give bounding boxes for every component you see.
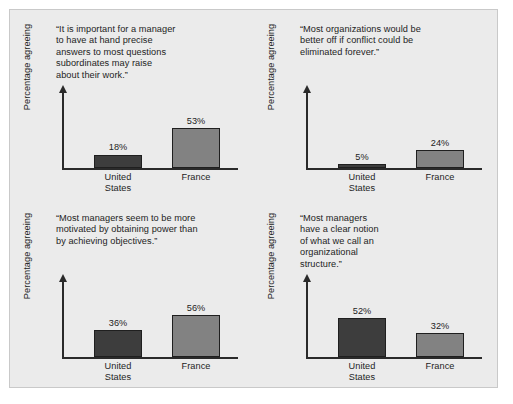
chart-panel-4: “Most managers have a clear notion of wh… [254,199,498,388]
y-axis-label-1: Percentage agreeing [22,21,32,113]
figure-panel: “It is important for a manager to have a… [9,9,498,388]
y-axis-label-3: Percentage agreeing [22,210,32,302]
y-axis-arrow-icon-3 [59,274,67,282]
y-axis-label-2: Percentage agreeing [266,21,276,113]
plot-area-2: 5% 24% United States France [306,86,482,170]
category-label-france-2: France [404,172,476,183]
category-label-france-4: France [404,361,476,372]
plot-area-4: 52% 32% United States France [306,275,482,359]
bar-value-france-2: 24% [410,138,470,148]
chart-panel-2: “Most organizations would be better off … [254,10,498,199]
category-label-united-states-2: United States [326,172,398,194]
chart-title-2: “Most organizations would be better off … [300,24,486,58]
x-axis-line-2 [306,168,482,170]
bar-france-1 [172,128,220,168]
y-axis-line-2 [306,92,308,170]
bar-value-france-4: 32% [410,321,470,331]
bar-value-france-3: 56% [166,303,226,313]
chart-title-3: “Most managers seem to be more motivated… [56,213,242,247]
bar-value-united-states-2: 5% [332,152,392,162]
category-label-france-1: France [160,172,232,183]
x-axis-line-3 [62,357,238,359]
chart-title-1: “It is important for a manager to have a… [56,24,242,81]
bar-value-france-1: 53% [166,116,226,126]
bar-france-2 [416,150,464,168]
y-axis-arrow-icon-1 [59,85,67,93]
category-label-united-states-1: United States [82,172,154,194]
bar-united-states-2 [338,164,386,168]
y-axis-line-1 [62,92,64,170]
plot-area-1: 18% 53% United States France [62,86,238,170]
chart-panel-3: “Most managers seem to be more motivated… [10,199,254,388]
category-label-france-3: France [160,361,232,372]
x-axis-line-1 [62,168,238,170]
y-axis-label-4: Percentage agreeing [266,210,276,302]
category-label-united-states-3: United States [82,361,154,383]
bar-value-united-states-4: 52% [332,306,392,316]
bar-value-united-states-3: 36% [88,318,148,328]
chart-panel-1: “It is important for a manager to have a… [10,10,254,199]
y-axis-line-3 [62,281,64,359]
bar-value-united-states-1: 18% [88,142,148,152]
y-axis-line-4 [306,281,308,359]
chart-title-4: “Most managers have a clear notion of wh… [300,213,410,270]
y-axis-arrow-icon-4 [303,274,311,282]
category-label-united-states-4: United States [326,361,398,383]
bar-france-4 [416,333,464,357]
y-axis-arrow-icon-2 [303,85,311,93]
x-axis-line-4 [306,357,482,359]
bar-france-3 [172,315,220,357]
bar-united-states-1 [94,155,142,169]
bar-united-states-4 [338,318,386,357]
chart-grid: “It is important for a manager to have a… [10,10,497,387]
bar-united-states-3 [94,330,142,357]
plot-area-3: 36% 56% United States France [62,275,238,359]
